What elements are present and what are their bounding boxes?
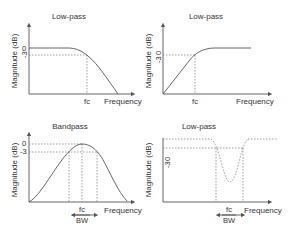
y-axis-label: Magnitude (dB) <box>10 33 19 88</box>
tick-fc: fc <box>226 205 232 214</box>
tick-minus3: -3 <box>20 51 29 58</box>
panel-bottom-left: Bandpass Magnitude (dB) 0 -3 fc BW Frequ… <box>10 122 142 225</box>
tick-zero: 0 <box>154 51 163 55</box>
x-axis-label: Frequency <box>244 206 282 215</box>
y-axis-label: Magnitude (dB) <box>10 142 19 197</box>
panel-title: Low-pass <box>189 12 223 21</box>
x-axis-label: Frequency <box>104 206 142 215</box>
tick-zero: 0 <box>163 157 172 161</box>
filter-response-diagram: Low-pass Magnitude (dB) 0 -3 fc Frequenc… <box>0 0 289 235</box>
tick-minus3: -3 <box>154 56 163 63</box>
panel-title: Bandpass <box>52 122 88 131</box>
response-curve <box>29 144 127 202</box>
panel-title: Low-pass <box>182 122 216 131</box>
panel-bottom-right: Low-pass Magnitude (dB) 0 -3 fc BW Frequ… <box>144 122 282 225</box>
tick-bw: BW <box>76 216 89 225</box>
x-axis-label: Frequency <box>104 97 142 106</box>
tick-fc: fc <box>79 205 85 214</box>
tick-minus3: -3 <box>163 161 172 168</box>
tick-minus3: -3 <box>20 147 27 156</box>
panel-title: Low-pass <box>52 12 86 21</box>
y-axis-label: Magnitude (dB) <box>144 142 153 197</box>
tick-bw: BW <box>223 216 236 225</box>
tick-fc: fc <box>192 97 198 106</box>
panel-top-left: Low-pass Magnitude (dB) 0 -3 fc Frequenc… <box>10 12 142 106</box>
tick-fc: fc <box>84 97 90 106</box>
x-axis-label: Frequency <box>236 97 274 106</box>
y-axis-label: Magnitude (dB) <box>144 33 153 88</box>
panel-top-right: Low-pass Magnitude (dB) 0 -3 fc Frequenc… <box>144 12 274 106</box>
